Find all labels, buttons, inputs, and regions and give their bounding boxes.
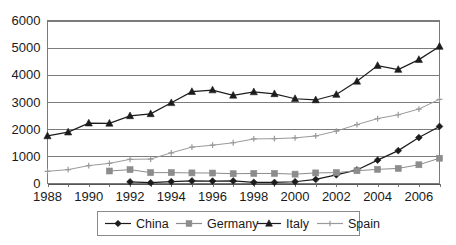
- data-point-marker: [65, 167, 71, 173]
- data-point-marker: [333, 91, 340, 98]
- data-point-marker: [313, 133, 319, 139]
- data-point-marker: [395, 147, 402, 154]
- x-tick-label: 2002: [322, 189, 351, 204]
- data-point-marker: [127, 156, 133, 162]
- data-point-marker: [106, 168, 112, 174]
- data-point-marker: [127, 167, 133, 173]
- data-point-marker: [354, 122, 360, 128]
- data-point-marker: [353, 77, 360, 84]
- x-tick-label: 1988: [33, 189, 62, 204]
- data-point-marker: [168, 150, 174, 156]
- series-china: [127, 123, 443, 186]
- data-point-marker: [230, 140, 236, 146]
- x-axis-tick-labels: 1988199019921994199619982000200220042006: [33, 189, 433, 204]
- data-point-marker: [147, 110, 154, 117]
- data-point-marker: [251, 136, 257, 142]
- x-tick-label: 1996: [198, 189, 227, 204]
- x-tick-label: 2000: [281, 189, 310, 204]
- data-point-marker: [374, 62, 381, 69]
- legend-label-germany: Germany: [207, 217, 259, 231]
- data-point-marker: [375, 116, 381, 122]
- data-point-marker: [375, 166, 381, 172]
- y-tick-label: 2000: [12, 122, 41, 137]
- data-point-marker: [186, 221, 192, 227]
- data-point-marker: [436, 43, 443, 50]
- data-point-marker: [436, 123, 443, 130]
- line-chart-figure: 0100020003000400050006000 19881990199219…: [0, 0, 456, 245]
- legend-label-spain: Spain: [348, 217, 380, 231]
- data-point-marker: [395, 112, 401, 118]
- data-point-marker: [148, 156, 154, 162]
- data-point-marker: [437, 96, 443, 102]
- series-spain: [45, 96, 443, 174]
- legend: ChinaGermanyItalySpain: [98, 212, 381, 236]
- data-point-marker: [189, 144, 195, 150]
- data-point-marker: [437, 155, 443, 161]
- data-point-marker: [415, 134, 422, 141]
- x-tick-label: 2006: [404, 189, 433, 204]
- data-point-marker: [168, 170, 174, 176]
- data-point-marker: [272, 136, 278, 142]
- data-point-marker: [209, 86, 216, 93]
- data-point-marker: [230, 171, 236, 177]
- data-point-marker: [333, 170, 339, 176]
- x-tick-label: 1990: [74, 189, 103, 204]
- x-tick-label: 1992: [116, 189, 145, 204]
- data-point-marker: [415, 56, 422, 63]
- data-point-marker: [250, 88, 257, 95]
- series-germany: [106, 155, 442, 177]
- data-point-marker: [210, 142, 216, 148]
- data-point-marker: [148, 170, 154, 176]
- legend-label-italy: Italy: [286, 217, 310, 231]
- series-italy: [44, 43, 443, 139]
- data-point-marker: [292, 135, 298, 141]
- series-line-italy: [48, 46, 440, 136]
- x-tick-label: 1994: [157, 189, 186, 204]
- data-point-marker: [45, 168, 51, 174]
- y-tick-label: 4000: [12, 67, 41, 82]
- y-tick-label: 6000: [12, 13, 41, 28]
- y-tick-label: 1000: [12, 149, 41, 164]
- data-point-marker: [271, 170, 277, 176]
- data-point-marker: [210, 170, 216, 176]
- y-tick-label: 5000: [12, 40, 41, 55]
- legend-label-china: China: [136, 217, 169, 231]
- data-point-marker: [189, 170, 195, 176]
- data-point-marker: [374, 157, 381, 164]
- data-point-marker: [333, 128, 339, 134]
- x-tick-label: 2004: [363, 189, 392, 204]
- data-point-marker: [354, 168, 360, 174]
- data-point-marker: [86, 163, 92, 169]
- data-point-marker: [147, 179, 154, 186]
- data-point-marker: [313, 170, 319, 176]
- x-tick-label: 1998: [239, 189, 268, 204]
- data-point-marker: [312, 176, 319, 183]
- data-point-marker: [292, 171, 298, 177]
- data-point-marker: [395, 165, 401, 171]
- data-point-marker: [416, 106, 422, 112]
- y-tick-label: 3000: [12, 95, 41, 110]
- data-point-marker: [106, 160, 112, 166]
- data-point-marker: [251, 170, 257, 176]
- chart-canvas: 0100020003000400050006000 19881990199219…: [0, 0, 456, 245]
- y-axis-tick-labels: 0100020003000400050006000: [12, 13, 41, 191]
- data-point-marker: [416, 162, 422, 168]
- series-group: [44, 43, 443, 187]
